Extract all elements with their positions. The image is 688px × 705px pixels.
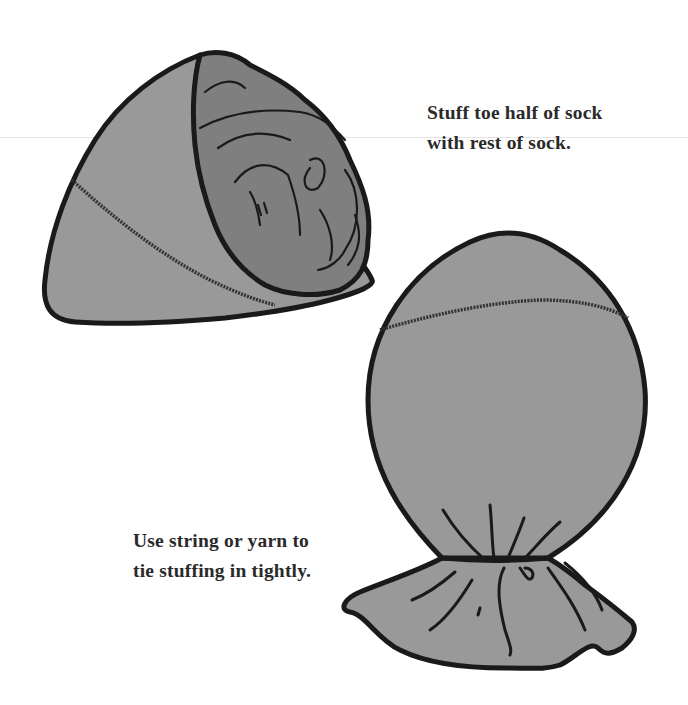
instruction-step-2-line-2: tie stuffing in tightly. <box>133 556 311 586</box>
sock-tied-icon <box>344 233 646 668</box>
instruction-step-1-line-1: Stuff toe half of sock <box>427 98 603 128</box>
instruction-step-1: Stuff toe half of sock with rest of sock… <box>427 98 603 158</box>
sock-stuffed-icon <box>44 52 372 323</box>
instruction-step-2: Use string or yarn to tie stuffing in ti… <box>133 526 311 586</box>
instruction-step-1-line-2: with rest of sock. <box>427 128 603 158</box>
instruction-step-2-line-1: Use string or yarn to <box>133 526 311 556</box>
